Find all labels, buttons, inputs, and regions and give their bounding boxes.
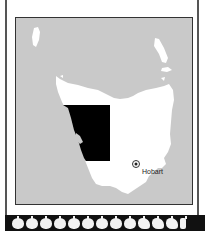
apple-footer-strip — [5, 215, 205, 231]
king-island — [32, 27, 40, 47]
city-label-hobart: Hobart — [142, 168, 163, 175]
frame-left-border — [5, 0, 7, 216]
frame-right-border — [197, 0, 199, 216]
apple-icon — [12, 218, 24, 229]
apple-icon — [26, 218, 38, 229]
apple-icon — [124, 218, 136, 229]
apple-icon — [54, 218, 66, 229]
apple-core-icon — [180, 218, 186, 229]
apple-bitten-icon — [138, 218, 150, 229]
apple-bitten-icon — [166, 218, 178, 229]
apple-icon — [96, 218, 108, 229]
apple-icon — [110, 218, 122, 229]
cape-barren-island — [161, 67, 172, 72]
apple-icon — [82, 218, 94, 229]
apple-bitten-icon — [152, 218, 164, 229]
small-island-nw — [60, 75, 63, 78]
apple-icon — [68, 218, 80, 229]
hobart-marker-dot — [135, 163, 138, 166]
map: Hobart — [15, 17, 193, 205]
apple-icon — [40, 218, 52, 229]
small-island — [161, 77, 165, 81]
tasmania-map-svg — [16, 18, 192, 204]
flinders-island — [154, 38, 168, 63]
